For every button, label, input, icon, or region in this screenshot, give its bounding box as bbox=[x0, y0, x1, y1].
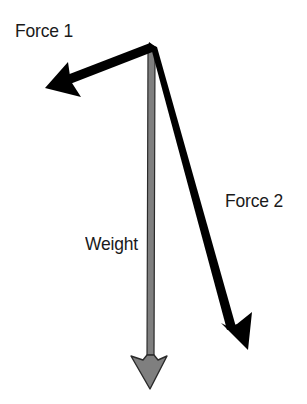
weight-arrow bbox=[131, 50, 167, 389]
force2-arrow-shaft bbox=[150, 44, 236, 330]
weight-label: Weight bbox=[85, 233, 138, 255]
force1-arrow bbox=[45, 43, 155, 97]
force1-label: Force 1 bbox=[15, 20, 73, 42]
force1-arrow-shaft bbox=[67, 43, 155, 84]
origin-joint bbox=[148, 42, 156, 52]
force2-label: Force 2 bbox=[225, 190, 283, 212]
weight-arrow-head bbox=[131, 355, 167, 389]
weight-arrow-shaft bbox=[147, 50, 155, 355]
force-diagram: Force 1 Force 2 Weight bbox=[0, 0, 307, 404]
